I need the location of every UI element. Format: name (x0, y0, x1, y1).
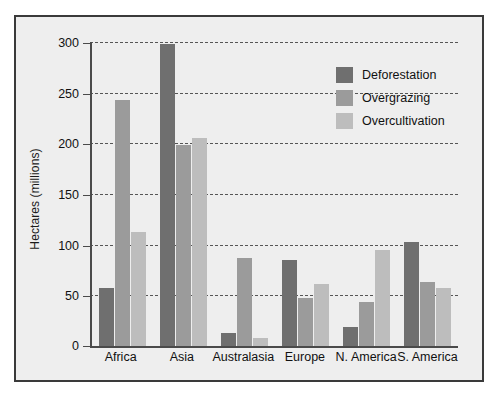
bar (343, 327, 358, 346)
legend-label: Overgrazing (362, 91, 430, 105)
legend-item: Overcultivation (336, 113, 445, 129)
y-tick-label: 100 (58, 239, 79, 253)
y-tick-label: 300 (58, 36, 79, 50)
bar (237, 258, 252, 346)
x-tick-label-europe: Europe (274, 350, 335, 364)
legend-label: Deforestation (362, 68, 436, 82)
bar (314, 284, 329, 346)
chart-legend: DeforestationOvergrazingOvercultivation (336, 67, 445, 129)
legend-swatch-icon (336, 67, 353, 83)
x-tick-label-australasia: Australasia (212, 350, 274, 364)
bar (99, 288, 114, 346)
y-tick-mark (83, 144, 90, 145)
bar (221, 333, 236, 346)
chart-figure: Hectares (millions) 050100150200250300 A… (14, 15, 484, 382)
legend-item: Deforestation (336, 67, 445, 83)
bar (192, 138, 207, 346)
legend-swatch-icon (336, 90, 353, 106)
y-tick-mark (83, 296, 90, 297)
x-tick-label-n-america: N. America (336, 350, 397, 364)
bar (131, 232, 146, 347)
bar (176, 145, 191, 346)
legend-label: Overcultivation (362, 114, 445, 128)
bar (282, 260, 297, 346)
bar-group (275, 42, 336, 346)
bar-group (153, 42, 214, 346)
y-tick-label: 0 (72, 339, 79, 353)
bar (436, 288, 451, 346)
y-tick-mark (83, 43, 90, 44)
x-tick-label-s-america: S. America (397, 350, 458, 364)
x-tick-label-africa: Africa (90, 350, 151, 364)
bar (115, 100, 130, 346)
y-tick-mark (83, 346, 90, 347)
x-axis-tick-labels: AfricaAsiaAustralasiaEuropeN. AmericaS. … (90, 350, 458, 364)
bar (375, 250, 390, 346)
y-axis-line (90, 42, 92, 348)
bar (420, 282, 435, 346)
bar (253, 338, 268, 346)
bar-group (92, 42, 153, 346)
legend-item: Overgrazing (336, 90, 445, 106)
x-axis-line (90, 346, 458, 348)
y-tick-label: 50 (65, 289, 79, 303)
y-tick-mark (83, 195, 90, 196)
bar-group (214, 42, 275, 346)
y-axis-title-text: Hectares (millions) (28, 148, 42, 249)
y-tick-mark (83, 94, 90, 95)
y-tick-label: 250 (58, 87, 79, 101)
y-tick-label: 200 (58, 137, 79, 151)
bar (298, 298, 313, 346)
y-tick-mark (83, 246, 90, 247)
y-tick-label: 150 (58, 188, 79, 202)
bar (359, 302, 374, 346)
x-tick-label-asia: Asia (151, 350, 212, 364)
legend-swatch-icon (336, 113, 353, 129)
bar (404, 242, 419, 346)
bar (160, 44, 175, 346)
y-axis-title: Hectares (millions) (24, 17, 46, 380)
